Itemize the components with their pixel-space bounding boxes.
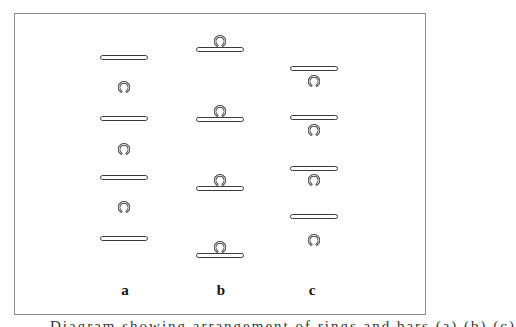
bar-a-4 (100, 236, 148, 241)
open-ring-icon (118, 79, 130, 93)
bar-b-3 (196, 186, 244, 191)
open-ring-icon (308, 73, 320, 87)
caption-text: Diagram showing arrangement of rings and… (50, 318, 516, 327)
column-label-b: b (217, 283, 225, 298)
open-ring-icon (214, 172, 226, 186)
figure-caption: Diagram showing arrangement of rings and… (50, 318, 516, 327)
open-ring-icon (308, 122, 320, 136)
column-label-c: c (309, 283, 316, 298)
open-ring-icon (214, 239, 226, 253)
bar-c-1 (290, 66, 338, 71)
column-label-a: a (121, 283, 129, 298)
bar-c-4 (290, 214, 338, 219)
open-ring-icon (308, 172, 320, 186)
bar-a-2 (100, 116, 148, 121)
bar-b-2 (196, 117, 244, 122)
bar-c-3 (290, 166, 338, 171)
open-ring-icon (214, 103, 226, 117)
open-ring-icon (308, 232, 320, 246)
open-ring-icon (118, 141, 130, 155)
bar-b-1 (196, 47, 244, 52)
bar-a-1 (100, 55, 148, 60)
figure-frame (14, 13, 426, 315)
bar-c-2 (290, 115, 338, 120)
bar-b-4 (196, 253, 244, 258)
bar-a-3 (100, 175, 148, 180)
open-ring-icon (214, 33, 226, 47)
open-ring-icon (118, 199, 130, 213)
